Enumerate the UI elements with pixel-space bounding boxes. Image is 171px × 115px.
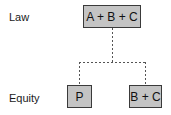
left-child-node-label: P bbox=[75, 90, 83, 104]
equity-row-label: Equity bbox=[9, 92, 40, 104]
root-node: A + B + C bbox=[83, 5, 141, 28]
right-child-node: B + C bbox=[129, 85, 162, 108]
law-row-label: Law bbox=[9, 11, 29, 23]
root-node-label: A + B + C bbox=[86, 10, 137, 24]
left-child-node: P bbox=[67, 85, 92, 108]
right-child-node-label: B + C bbox=[130, 90, 160, 104]
